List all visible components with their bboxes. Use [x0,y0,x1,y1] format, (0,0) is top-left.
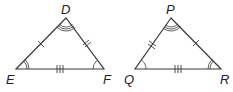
label-e: E [6,72,15,87]
label-f: F [103,72,112,87]
arc-q [141,60,146,69]
label-p: P [166,2,175,17]
arc-e-1 [24,61,27,69]
label-d: D [61,2,70,17]
triangle-pqr-outline [135,18,221,69]
arc-p-1 [166,24,178,27]
label-q: Q [124,72,134,87]
congruent-triangles-diagram: D E F P Q R [0,0,233,92]
label-r: R [220,72,229,87]
triangle-def-outline [16,18,104,69]
triangle-def: D E F [6,2,112,87]
arc-r-1 [210,61,213,69]
triangle-pqr: P Q R [124,2,229,87]
arc-f [93,61,97,69]
